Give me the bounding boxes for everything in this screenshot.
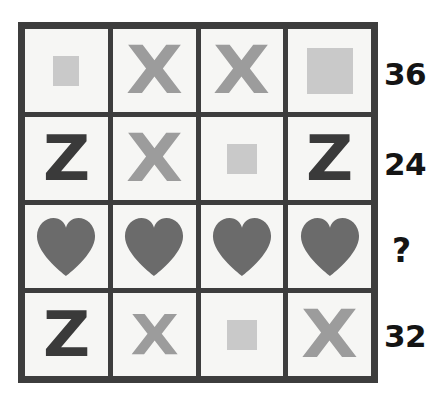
grid-cell-r1-c1 — [25, 29, 108, 112]
grid-cell-r3-c3 — [201, 205, 284, 288]
z-icon: Z — [43, 304, 90, 366]
grid-cell-r2-c4: Z — [288, 117, 371, 200]
square-icon — [53, 56, 79, 86]
row-value-2: 24 — [384, 146, 442, 182]
x-icon: X — [130, 307, 178, 363]
x-icon: X — [301, 302, 358, 368]
heart-icon — [123, 214, 185, 280]
grid-cell-r3-c1 — [25, 205, 108, 288]
grid-cell-r4-c1: Z — [25, 293, 108, 376]
x-icon: X — [126, 126, 183, 192]
row-value-4: 32 — [384, 318, 442, 354]
square-icon — [227, 320, 257, 350]
row-value-3-unknown: ? — [392, 231, 443, 270]
grid-cell-r3-c2 — [113, 205, 196, 288]
puzzle-image: XXZXZZXX 36 24 ? 32 — [0, 0, 443, 399]
grid-cell-r4-c3 — [201, 293, 284, 376]
grid-cell-r2-c3 — [201, 117, 284, 200]
z-icon: Z — [306, 128, 353, 190]
grid-cell-r1-c3: X — [201, 29, 284, 112]
heart-icon — [299, 214, 361, 280]
symbol-grid: XXZXZZXX — [18, 22, 378, 383]
x-icon: X — [213, 38, 270, 104]
grid-cell-r1-c2: X — [113, 29, 196, 112]
z-icon: Z — [43, 128, 90, 190]
square-icon — [227, 144, 257, 174]
grid-cell-r2-c2: X — [113, 117, 196, 200]
grid-cell-r4-c4: X — [288, 293, 371, 376]
grid-cell-r1-c4 — [288, 29, 371, 112]
heart-icon — [35, 214, 97, 280]
square-icon — [307, 48, 353, 94]
x-icon: X — [126, 38, 183, 104]
grid-cell-r3-c4 — [288, 205, 371, 288]
grid-cell-r4-c2: X — [113, 293, 196, 376]
grid-cell-r2-c1: Z — [25, 117, 108, 200]
heart-icon — [211, 214, 273, 280]
row-value-1: 36 — [384, 56, 442, 92]
